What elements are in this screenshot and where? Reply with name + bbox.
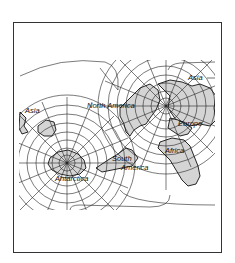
label-south: South — [112, 154, 132, 163]
landmass-australia — [38, 120, 56, 136]
graticule — [0, 38, 234, 231]
label-asia-east: Asia — [187, 73, 203, 82]
label-africa: Africa — [164, 146, 184, 155]
world-map: Asia Asia North America Europe Africa So… — [0, 0, 235, 263]
label-antarctica: Antarctica — [54, 174, 88, 183]
label-europe: Europe — [178, 119, 202, 128]
label-north-america: North America — [87, 101, 135, 110]
label-america: America — [120, 163, 149, 172]
label-asia-west: Asia — [24, 106, 40, 115]
